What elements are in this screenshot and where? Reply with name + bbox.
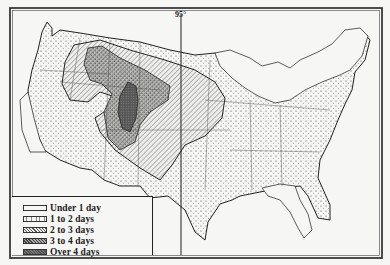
- map-legend: Under 1 day 1 to 2 days 2 to 3 days 3 to…: [12, 196, 153, 255]
- swatch-dots-icon: [23, 216, 47, 222]
- swatch-hatch-icon: [23, 227, 47, 233]
- legend-item-1-to-2-days: 1 to 2 days: [23, 214, 152, 225]
- legend-item-2-to-3-days: 2 to 3 days: [23, 225, 152, 236]
- legend-item-over-4-days: Over 4 days: [23, 247, 152, 258]
- swatch-dark-icon: [23, 249, 47, 255]
- legend-item-under-1-day: Under 1 day: [23, 203, 152, 214]
- swatch-blank-icon: [23, 205, 47, 211]
- meridian-label: 95°: [175, 10, 186, 19]
- swatch-stipple-icon: [23, 238, 47, 244]
- legend-item-3-to-4-days: 3 to 4 days: [23, 236, 152, 247]
